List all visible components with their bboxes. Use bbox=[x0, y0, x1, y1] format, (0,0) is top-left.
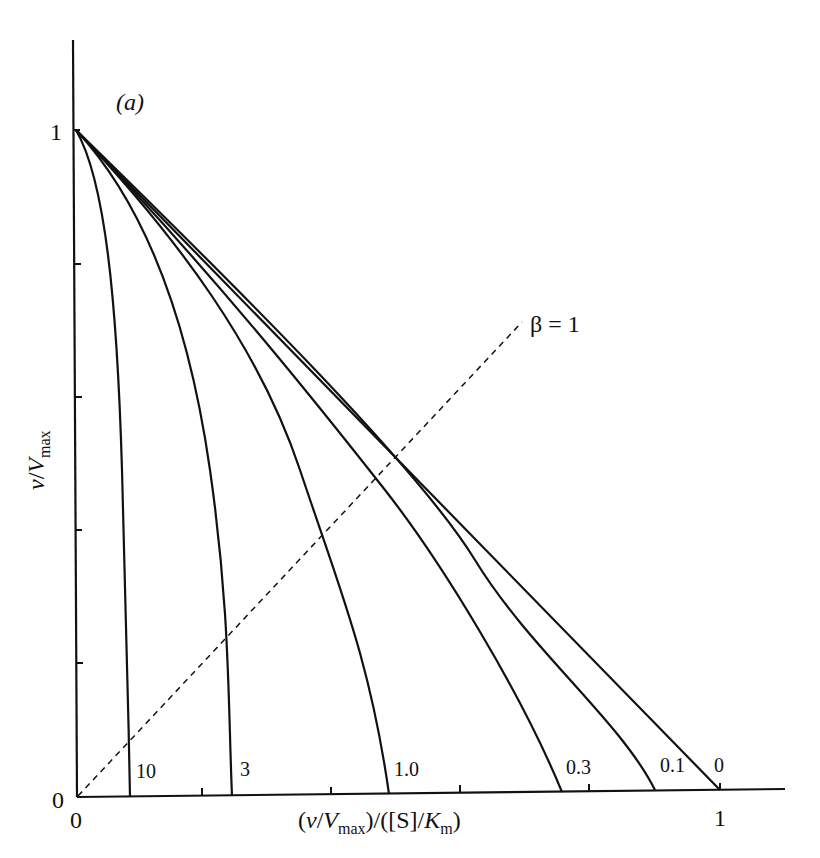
y-tick-label-0: 0 bbox=[52, 787, 64, 813]
curve-beta-1.0 bbox=[76, 130, 389, 794]
beta-label: β = 1 bbox=[530, 311, 580, 337]
panel-label: (a) bbox=[116, 89, 144, 115]
y-tick-label-1: 1 bbox=[50, 119, 62, 145]
curve-beta-3 bbox=[76, 130, 232, 796]
chart: 10 3 1.0 0.3 0.1 0 (a) 1 0 0 1 β = 1 v/V… bbox=[0, 0, 820, 858]
svg-text:3: 3 bbox=[240, 758, 250, 780]
beta-reference-line bbox=[78, 322, 522, 796]
svg-text:10: 10 bbox=[136, 760, 156, 782]
x-axis bbox=[77, 789, 785, 797]
curve-beta-10 bbox=[76, 130, 130, 797]
y-axis bbox=[73, 40, 77, 797]
y-axis-label: v/Vmax bbox=[23, 430, 53, 490]
svg-text:1.0: 1.0 bbox=[394, 758, 419, 780]
svg-text:0.1: 0.1 bbox=[660, 754, 685, 776]
svg-text:0.3: 0.3 bbox=[566, 756, 591, 778]
axes bbox=[73, 40, 785, 797]
curve-beta-0.3 bbox=[76, 130, 562, 792]
x-tick-label-0: 0 bbox=[70, 807, 82, 833]
curves bbox=[76, 130, 720, 797]
x-axis-label: (v/Vmax)/([S]/Km) bbox=[298, 807, 461, 837]
svg-text:0: 0 bbox=[714, 754, 724, 776]
x-tick-label-1: 1 bbox=[714, 805, 726, 831]
